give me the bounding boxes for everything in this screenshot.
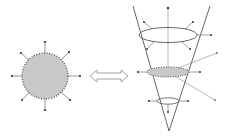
middle-cross-section (147, 67, 189, 77)
top-section-arrows (144, 22, 211, 49)
sphere (22, 53, 68, 99)
double-arrow-icon (90, 70, 128, 82)
bottom-section-arrows (149, 101, 188, 112)
cone-figure (133, 6, 217, 131)
diagram-canvas (0, 0, 228, 140)
sphere-figure (12, 42, 80, 110)
